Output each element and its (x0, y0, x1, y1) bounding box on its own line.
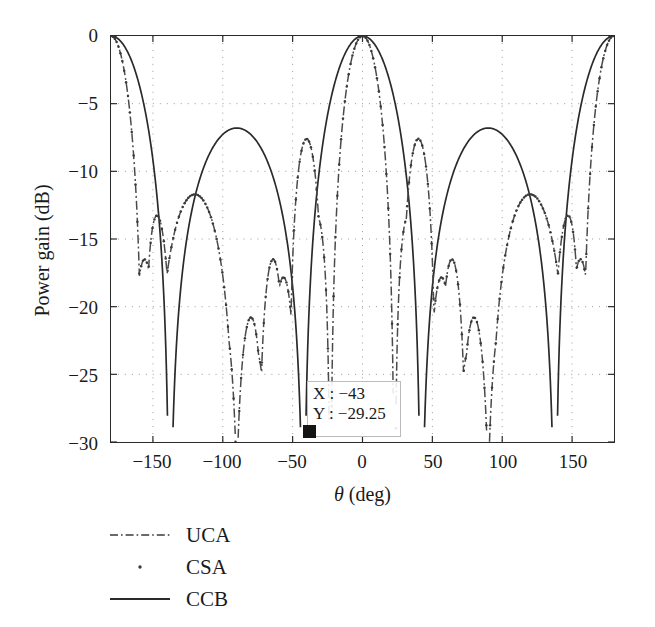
y-tick-label: −30 (40, 434, 98, 453)
y-tick-label: 0 (40, 26, 98, 45)
x-tick-label: −100 (202, 452, 241, 471)
legend-item-uca: UCA (108, 519, 338, 551)
legend: UCA CSA CCB (108, 519, 338, 615)
x-tick-label: −50 (277, 452, 307, 471)
y-tick-label: −25 (40, 366, 98, 385)
x-tick-label: 50 (424, 452, 443, 471)
legend-label-uca: UCA (172, 523, 230, 548)
beampattern-figure: Power gain (dB) 0 −5 −10 −15 −20 −25 −30… (0, 0, 655, 627)
y-tick-label: −20 (40, 298, 98, 317)
legend-label-ccb: CCB (172, 587, 228, 612)
data-tip-marker (303, 425, 316, 438)
x-axis-title: θ (deg) (110, 483, 615, 506)
solid-line-icon (108, 592, 172, 606)
dash-dot-line-icon (108, 528, 172, 542)
x-tick-label: 0 (357, 452, 367, 471)
data-tip-annotation: X : −43 Y : −29.25 (307, 381, 401, 437)
x-tick-label: 100 (489, 452, 518, 471)
data-tip-x: X : −43 (313, 384, 396, 404)
dot-marker-icon (108, 560, 172, 574)
x-axis-title-symbol: θ (334, 483, 344, 505)
legend-item-ccb: CCB (108, 583, 338, 615)
x-tick-label: 150 (559, 452, 588, 471)
y-tick-label: −5 (40, 94, 98, 113)
data-tip-y: Y : −29.25 (313, 404, 396, 424)
legend-item-csa: CSA (108, 551, 338, 583)
x-axis-title-unit: (deg) (344, 483, 391, 505)
y-tick-label: −10 (40, 162, 98, 181)
legend-label-csa: CSA (172, 555, 227, 580)
x-tick-label: −150 (132, 452, 171, 471)
y-tick-label: −15 (40, 230, 98, 249)
